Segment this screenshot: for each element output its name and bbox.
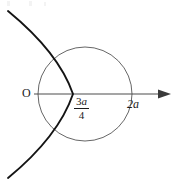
axis-label-three-a-over-four: 3a 4 [74, 96, 89, 121]
axis-label-two-a: 2a [127, 98, 139, 110]
fraction-numerator: 3a [74, 96, 89, 109]
fraction-numerator-variable: a [82, 95, 88, 107]
fraction-denominator: 4 [74, 109, 89, 121]
geometry-figure: O 3a 4 2a [0, 0, 175, 184]
x-axis-arrowhead [158, 90, 171, 99]
origin-label: O [22, 87, 31, 99]
